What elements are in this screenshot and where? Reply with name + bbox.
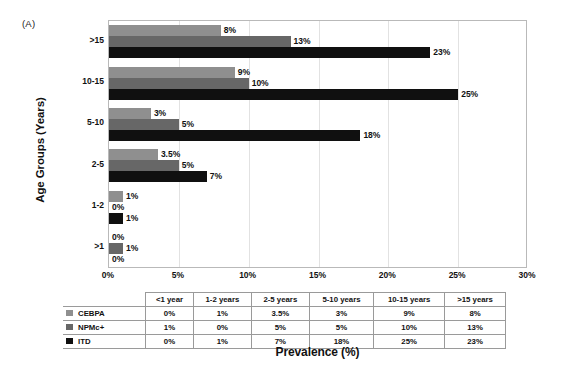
bar[interactable] — [109, 160, 179, 171]
bar[interactable] — [109, 119, 179, 130]
bar[interactable] — [109, 130, 360, 141]
y-axis-tick-label: >1 — [44, 241, 104, 251]
bar-row: 25% — [109, 89, 526, 100]
bar-row: 3.5% — [109, 149, 526, 160]
table-cell: 3.5% — [251, 307, 309, 321]
bar-row: 9% — [109, 67, 526, 78]
bar-row: 5% — [109, 119, 526, 130]
bar-group: 1%0%1% — [109, 191, 526, 224]
x-axis-tick-label: 20% — [367, 270, 407, 280]
bar-row: 1% — [109, 191, 526, 202]
bar-row: 7% — [109, 171, 526, 182]
bar-value-label: 0% — [112, 231, 124, 243]
bar[interactable] — [109, 213, 123, 224]
bar-row: 23% — [109, 47, 526, 58]
table-cell: 10% — [374, 321, 445, 335]
x-axis-tick-label: 15% — [298, 270, 338, 280]
y-axis-tick-label: 1-2 — [44, 200, 104, 210]
bar-value-label: 10% — [252, 77, 269, 89]
table-cell: 0% — [193, 321, 251, 335]
bar-group: 3.5%5%7% — [109, 149, 526, 182]
bar-row: 0% — [109, 254, 526, 265]
bar-value-label: 1% — [126, 242, 138, 254]
x-axis-title: Prevalence (%) — [108, 345, 527, 359]
table-header: <1 year1-2 years2-5 years5-10 years10-15… — [63, 293, 506, 307]
table-row: NPMc+1%0%5%5%10%13% — [63, 321, 506, 335]
bar-value-label: 18% — [363, 129, 380, 141]
bar-value-label: 0% — [112, 253, 124, 265]
table-cell: 5% — [309, 321, 373, 335]
bar-row: 18% — [109, 130, 526, 141]
bar-value-label: 5% — [182, 159, 194, 171]
table-cell: 0% — [146, 307, 194, 321]
bar-value-label: 7% — [210, 170, 222, 182]
bar[interactable] — [109, 108, 151, 119]
table-cell: 1% — [146, 321, 194, 335]
bar[interactable] — [109, 25, 221, 36]
table-column-header: 5-10 years — [309, 293, 373, 307]
y-axis-tick-label: >15 — [44, 35, 104, 45]
plot-area: 8%13%23%9%10%25%3%5%18%3.5%5%7%1%0%1%0%1… — [108, 20, 527, 268]
x-axis-tick-label: 30% — [507, 270, 547, 280]
bar-row: 0% — [109, 202, 526, 213]
x-axis-tick-label: 25% — [437, 270, 477, 280]
series-name: ITD — [78, 337, 91, 346]
bar[interactable] — [109, 36, 291, 47]
bar-row: 13% — [109, 36, 526, 47]
bar[interactable] — [109, 171, 207, 182]
panel-label: (A) — [22, 18, 35, 29]
bar-value-label: 9% — [238, 66, 250, 78]
table-cell: 3% — [309, 307, 373, 321]
bar[interactable] — [109, 47, 430, 58]
legend-swatch-icon — [66, 310, 73, 316]
legend-swatch-icon — [66, 324, 73, 330]
bar[interactable] — [109, 89, 458, 100]
bar-value-label: 0% — [112, 201, 124, 213]
table-body: CEBPA0%1%3.5%3%9%8%NPMc+1%0%5%5%10%13%IT… — [63, 307, 506, 349]
table-corner-cell — [63, 293, 146, 307]
y-axis-tick-labels: >1510-155-102-51-2>1 — [40, 20, 104, 268]
table-row: CEBPA0%1%3.5%3%9%8% — [63, 307, 506, 321]
table-cell: 9% — [374, 307, 445, 321]
x-axis-tick-labels: 0%5%10%15%20%25%30% — [108, 270, 527, 284]
bar-row: 1% — [109, 243, 526, 254]
y-axis-tick-label: 5-10 — [44, 117, 104, 127]
table-cell: 13% — [445, 321, 506, 335]
legend-swatch-icon — [66, 338, 73, 344]
table-row-header: NPMc+ — [63, 321, 146, 335]
table-column-header: 2-5 years — [251, 293, 309, 307]
x-axis-tick-label: 0% — [88, 270, 128, 280]
bar[interactable] — [109, 149, 158, 160]
y-axis-tick-label: 2-5 — [44, 159, 104, 169]
series-name: NPMc+ — [78, 323, 104, 332]
bar[interactable] — [109, 78, 249, 89]
table-row-header: CEBPA — [63, 307, 146, 321]
table-cell: 5% — [251, 321, 309, 335]
bar-group: 8%13%23% — [109, 25, 526, 58]
bar-value-label: 3% — [154, 107, 166, 119]
bar-value-label: 23% — [433, 46, 450, 58]
bar-row: 5% — [109, 160, 526, 171]
bar-group: 0%1%0% — [109, 232, 526, 265]
series-name: CEBPA — [78, 309, 105, 318]
bar-value-label: 13% — [294, 35, 311, 47]
table-header-row: <1 year1-2 years2-5 years5-10 years10-15… — [63, 293, 506, 307]
table-column-header: 10-15 years — [374, 293, 445, 307]
x-axis-tick-label: 5% — [158, 270, 198, 280]
bar[interactable] — [109, 67, 235, 78]
table-column-header: >15 years — [445, 293, 506, 307]
bar-group: 9%10%25% — [109, 67, 526, 100]
table-cell: 8% — [445, 307, 506, 321]
bar-value-label: 8% — [224, 24, 236, 36]
x-axis-tick-label: 10% — [228, 270, 268, 280]
y-axis-tick-label: 10-15 — [44, 76, 104, 86]
bar-value-label: 1% — [126, 190, 138, 202]
bar-group: 3%5%18% — [109, 108, 526, 141]
table-cell: 1% — [193, 307, 251, 321]
bar-row: 8% — [109, 25, 526, 36]
bar-row: 1% — [109, 213, 526, 224]
data-table: <1 year1-2 years2-5 years5-10 years10-15… — [63, 292, 506, 349]
bar-row: 3% — [109, 108, 526, 119]
bar-row: 0% — [109, 232, 526, 243]
bar-value-label: 5% — [182, 118, 194, 130]
